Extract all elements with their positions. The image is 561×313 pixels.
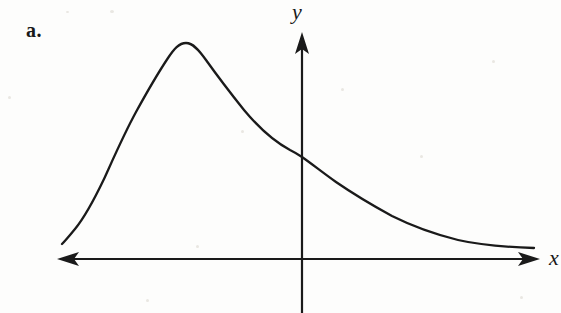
part-label: a. — [26, 19, 42, 42]
y-axis-label: y — [292, 0, 302, 25]
figure-canvas: a. y x — [0, 0, 561, 313]
x-axis-label: x — [549, 245, 559, 271]
graph-svg — [0, 0, 561, 313]
curve-path — [62, 43, 534, 248]
